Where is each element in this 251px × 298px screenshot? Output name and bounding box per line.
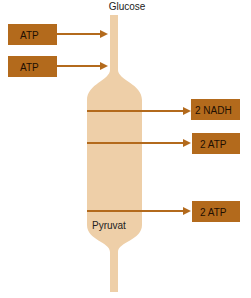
glycolysis-diagram: Glucose ATP ATP 2 NADH 2 ATP 2 ATP Pyruv… (0, 0, 251, 298)
input-label: ATP (20, 62, 39, 73)
output-atp-1: 2 ATP (192, 133, 240, 154)
output-label: 2 ATP (200, 207, 227, 218)
output-nadh: 2 NADH (191, 99, 240, 120)
input-atp-2: ATP (8, 56, 57, 77)
output-label: 2 ATP (200, 139, 227, 150)
input-atp-1: ATP (8, 24, 57, 45)
output-label: 2 NADH (195, 105, 232, 116)
glycolysis-tube (87, 15, 142, 292)
output-atp-2: 2 ATP (192, 201, 240, 222)
input-label: ATP (20, 30, 39, 41)
glucose-label: Glucose (109, 1, 146, 12)
pyruvat-label: Pyruvat (92, 220, 126, 231)
